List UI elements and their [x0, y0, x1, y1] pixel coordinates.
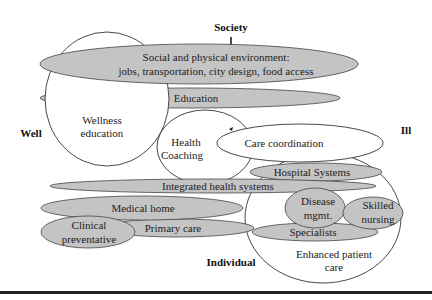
health-care-spectrum-diagram: Society Social and physical environment:… — [0, 0, 432, 300]
disease-mgmt-line2: mgmt. — [304, 209, 333, 221]
health-coaching-line1: Health — [171, 136, 201, 148]
education-label: Education — [174, 92, 219, 104]
clinical-preventative-line1: Clinical — [72, 219, 107, 231]
skilled-nursing-line2: nursing — [362, 213, 396, 225]
axis-label-individual: Individual — [207, 256, 256, 268]
wellness-education-line1: Wellness — [82, 114, 121, 126]
axis-label-society: Society — [214, 21, 248, 33]
disease-mgmt-line1: Disease — [301, 195, 335, 207]
enhanced-patient-care-line2: care — [325, 261, 343, 273]
social-environment-line2: jobs, transportation, city design, food … — [118, 65, 314, 77]
axis-label-ill: Ill — [401, 124, 411, 136]
bottom-rule — [0, 291, 432, 294]
social-environment-line1: Social and physical environment: — [143, 51, 290, 63]
axis-label-well: Well — [20, 127, 41, 139]
primary-care-label: Primary care — [145, 222, 202, 234]
disease-mgmt-ellipse — [285, 188, 345, 228]
hospital-systems-label: Hospital Systems — [274, 166, 351, 178]
wellness-education-line2: education — [81, 127, 124, 139]
clinical-preventative-line2: preventative — [62, 233, 116, 245]
enhanced-patient-care-line1: Enhanced patient — [296, 248, 372, 260]
health-coaching-line2: Coaching — [161, 149, 204, 161]
skilled-nursing-line1: Skilled — [362, 199, 394, 211]
medical-home-label: Medical home — [111, 202, 174, 214]
care-coordination-label: Care coordination — [244, 137, 324, 149]
integrated-health-systems-label: Integrated health systems — [162, 180, 274, 192]
social-environment-ellipse — [40, 44, 358, 84]
